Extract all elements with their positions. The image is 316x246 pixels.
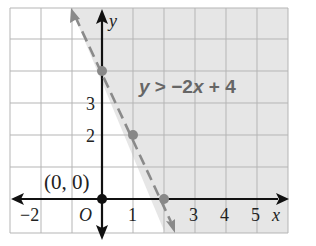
point-0-4 <box>97 66 107 76</box>
point-2-0 <box>159 194 169 204</box>
tick-label-x5: 5 <box>251 206 260 224</box>
ineq-tail: + 4 <box>203 76 235 97</box>
point-1-2 <box>128 130 138 140</box>
tick-label-x4: 4 <box>220 206 229 224</box>
origin-label: O <box>79 206 92 224</box>
tick-label-x3: 3 <box>189 206 198 224</box>
tick-label-y3: 3 <box>86 95 95 113</box>
y-axis-label: y <box>109 12 117 30</box>
inequality-graph <box>0 0 316 246</box>
tick-label-y2: 2 <box>86 127 95 145</box>
tick-label-x1: 1 <box>128 206 137 224</box>
inequality-label: y > −2x + 4 <box>139 77 236 96</box>
x-axis-label: x <box>272 206 280 224</box>
tick-label-xm2: −2 <box>20 206 39 224</box>
point-origin <box>97 194 107 204</box>
ineq-op: > −2 <box>150 76 193 97</box>
ineq-y: y <box>139 76 150 97</box>
ineq-x: x <box>193 76 204 97</box>
test-point-label: (0, 0) <box>44 172 90 193</box>
